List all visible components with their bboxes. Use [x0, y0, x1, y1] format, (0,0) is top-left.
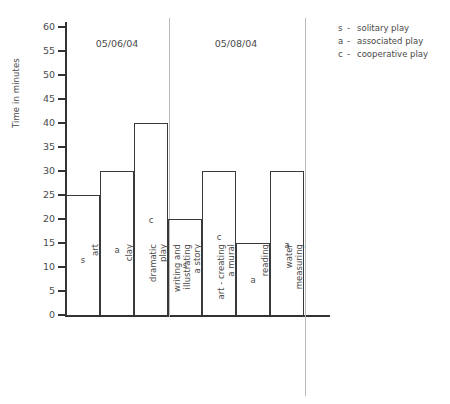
- x-label-5: art - creating a mural: [216, 244, 236, 322]
- bar-code-3: c: [149, 215, 154, 225]
- bar-code-5: c: [217, 232, 222, 242]
- y-tick-label-30: 30: [29, 165, 55, 176]
- bar-chart: Time in minutes 605550454035302520151050…: [0, 0, 450, 404]
- y-tick-25: [58, 194, 65, 195]
- bar-code-2: a: [114, 245, 119, 255]
- y-tick-0: [58, 314, 65, 315]
- group-separator-2: [305, 18, 306, 396]
- x-label-4: writing and illustrating a story: [172, 244, 202, 322]
- y-tick-15: [58, 242, 65, 243]
- legend-key-a: a: [338, 35, 347, 48]
- legend-key-s: s: [338, 22, 347, 35]
- legend-dash-a: -: [347, 35, 357, 48]
- legend-label-a: associated play: [357, 36, 423, 46]
- x-label-1: art: [90, 244, 100, 322]
- y-tick-label-40: 40: [29, 117, 55, 128]
- group-label-2: 05/08/04: [215, 38, 258, 49]
- bar-code-1: s: [81, 255, 85, 265]
- y-tick-30: [58, 170, 65, 171]
- y-tick-label-20: 20: [29, 213, 55, 224]
- legend-dash-s: -: [347, 22, 357, 35]
- group-label-1: 05/06/04: [96, 38, 139, 49]
- x-label-2: clay: [124, 244, 134, 322]
- y-axis-title: Time in minutes: [11, 8, 21, 128]
- y-tick-label-0: 0: [29, 309, 55, 320]
- y-tick-35: [58, 146, 65, 147]
- legend-label-c: cooperative play: [357, 49, 428, 59]
- y-tick-5: [58, 290, 65, 291]
- y-tick-10: [58, 266, 65, 267]
- y-tick-45: [58, 98, 65, 99]
- x-label-6: reading: [260, 244, 270, 322]
- y-tick-label-10: 10: [29, 261, 55, 272]
- legend-key-c: c: [338, 48, 347, 61]
- y-tick-label-25: 25: [29, 189, 55, 200]
- y-tick-50: [58, 74, 65, 75]
- y-tick-label-50: 50: [29, 69, 55, 80]
- y-tick-40: [58, 122, 65, 123]
- legend-item-c: c-cooperative play: [338, 48, 428, 61]
- legend-label-s: solitary play: [357, 23, 409, 33]
- legend-item-a: a-associated play: [338, 35, 428, 48]
- y-tick-label-35: 35: [29, 141, 55, 152]
- y-tick-label-15: 15: [29, 237, 55, 248]
- y-tick-label-45: 45: [29, 93, 55, 104]
- y-tick-60: [58, 26, 65, 27]
- y-tick-label-55: 55: [29, 45, 55, 56]
- legend: s-solitary playa-associated playc-cooper…: [338, 22, 428, 61]
- y-tick-label-60: 60: [29, 21, 55, 32]
- legend-item-s: s-solitary play: [338, 22, 428, 35]
- x-label-3: dramatic play: [148, 244, 168, 322]
- x-label-7: water measuring: [284, 244, 304, 322]
- y-tick-55: [58, 50, 65, 51]
- y-tick-label-5: 5: [29, 285, 55, 296]
- legend-dash-c: -: [347, 48, 357, 61]
- y-tick-20: [58, 218, 65, 219]
- bar-code-6: a: [250, 275, 255, 285]
